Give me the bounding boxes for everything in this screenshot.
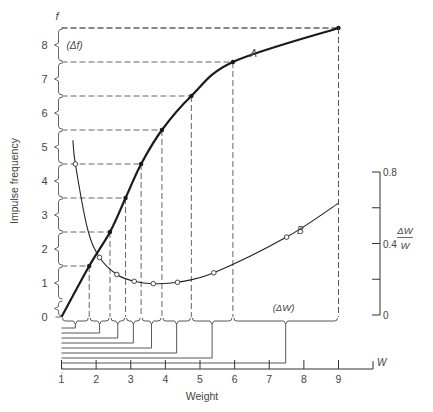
x-tick-label: 3	[128, 373, 134, 385]
series-b-point	[151, 281, 156, 286]
series-b-point	[115, 272, 120, 277]
y-tick-label: 7	[41, 73, 47, 85]
series-b-curve	[73, 140, 339, 284]
delta-w-brace	[127, 318, 141, 324]
y-tick-label: 2	[41, 243, 47, 255]
x-axis-symbol: W	[377, 357, 388, 368]
series-b-label: B	[297, 225, 304, 236]
y-tick-label: 0	[41, 311, 47, 323]
y-tick-label: 6	[41, 107, 47, 119]
series-a-point	[189, 94, 193, 98]
series-a-label: A	[249, 48, 257, 59]
series-a-point	[139, 162, 143, 166]
y-axis-symbol: f	[56, 10, 60, 22]
series-b-point	[175, 280, 180, 285]
x-tick-label: 2	[93, 373, 99, 385]
y-tick-label: 3	[41, 209, 47, 221]
x-tick-label: 8	[301, 373, 307, 385]
series-a-point	[231, 60, 235, 64]
series-b-point	[212, 271, 217, 276]
y-tick-label: 8	[41, 39, 47, 51]
y-interval-brace	[55, 29, 63, 61]
delta-w-brace	[192, 318, 232, 324]
delta-w-brace	[142, 318, 161, 324]
y-interval-brace	[55, 301, 63, 316]
series-a-curve	[62, 28, 339, 317]
y-tick-label: 4	[41, 175, 47, 187]
psychophysics-chart: f012345678(Δf)Impulse frequencyAB00.40.8…	[0, 0, 433, 412]
delta-w-brace	[63, 318, 89, 324]
y-interval-brace	[55, 199, 63, 231]
series-a-point	[108, 230, 112, 234]
series-b-point	[284, 235, 289, 240]
delta-w-brace	[163, 318, 190, 324]
x-tick-label: 9	[336, 373, 342, 385]
y2-tick-label: 0	[383, 310, 389, 321]
y-interval-brace	[55, 63, 63, 95]
y-tick-label: 5	[41, 141, 47, 153]
x-tick-label: 4	[162, 373, 168, 385]
y2-label-numerator: ΔW	[396, 225, 413, 236]
series-a-point	[160, 128, 164, 132]
y2-tick-label: 0.4	[383, 239, 397, 250]
series-b-point	[97, 255, 102, 260]
y-interval-brace	[55, 267, 63, 299]
y2-label-denominator: W	[401, 240, 411, 251]
delta-w-brace	[111, 318, 125, 324]
y-interval-brace	[55, 97, 63, 129]
delta-w-brace	[234, 318, 338, 324]
y-interval-brace	[55, 165, 63, 197]
series-a-point	[87, 264, 91, 268]
y2-tick-label: 0.8	[383, 167, 397, 178]
series-a-point	[123, 196, 127, 200]
x-axis-label: Weight	[186, 390, 219, 402]
series-b-point	[73, 162, 78, 167]
delta-w-brace	[90, 318, 109, 324]
delta-f-annotation: (Δf)	[67, 40, 83, 51]
y-interval-brace	[55, 233, 63, 265]
x-tick-label: 7	[266, 373, 272, 385]
series-b-point	[132, 279, 137, 284]
x-tick-label: 1	[59, 373, 65, 385]
y-tick-label: 1	[41, 277, 47, 289]
y-axis-label: Impulse frequency	[8, 137, 20, 224]
x-tick-label: 5	[197, 373, 203, 385]
y-interval-brace	[55, 131, 63, 163]
x-tick-label: 6	[232, 373, 238, 385]
delta-w-annotation: (ΔW)	[273, 302, 295, 313]
